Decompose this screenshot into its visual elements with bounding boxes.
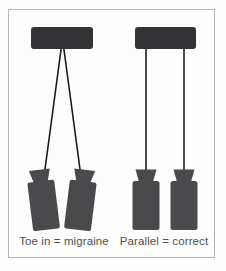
left-handlebar	[31, 27, 93, 49]
extension-left-line	[45, 46, 62, 173]
armrest-left-pad	[133, 181, 160, 230]
diagram-root: Toe in = migraine Parallel = correct	[0, 0, 226, 271]
left-panel-extensions	[45, 46, 81, 173]
right-armrest-right	[171, 170, 198, 231]
alignment-diagram: Toe in = migraine Parallel = correct	[0, 0, 226, 271]
armrest-right-pad	[171, 181, 198, 230]
left-armrest-right	[64, 168, 98, 231]
right-panel-group: Parallel = correct	[120, 27, 209, 247]
left-panel-group: Toe in = migraine	[19, 27, 109, 247]
armrest-left-clamp	[136, 170, 157, 183]
right-handlebar	[135, 27, 196, 49]
left-armrest-left	[26, 168, 60, 231]
right-panel-caption: Parallel = correct	[120, 235, 209, 247]
armrest-right-clamp	[174, 170, 195, 183]
armrest-left-pad	[27, 179, 60, 231]
right-armrest-left	[133, 170, 160, 231]
armrest-right-pad	[64, 179, 97, 231]
left-panel-caption: Toe in = migraine	[19, 235, 109, 247]
extension-right-line	[64, 46, 81, 173]
right-panel-extensions	[146, 46, 184, 173]
